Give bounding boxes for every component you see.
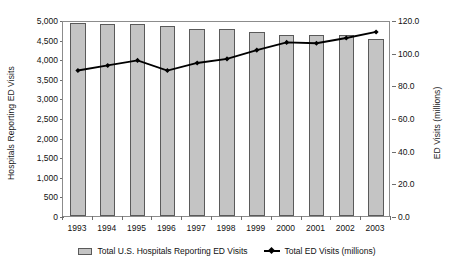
y-left-tick-4000: 4,000 (37, 56, 58, 65)
legend-label-bar: Total U.S. Hospitals Reporting ED Visits (97, 246, 247, 256)
y-right-tick-mark (392, 152, 396, 153)
bar-swatch-icon (78, 248, 92, 255)
x-axis-label-2003: 2003 (366, 223, 385, 233)
x-axis-label-2000: 2000 (276, 223, 295, 233)
x-axis-tick-mark (330, 216, 331, 220)
plot-area (62, 21, 390, 217)
x-axis-tick-mark (181, 216, 182, 220)
line-marker-2000 (284, 40, 289, 45)
line-marker-1997 (195, 60, 200, 65)
chart-legend: Total U.S. Hospitals Reporting ED Visits… (0, 246, 454, 256)
y-right-tick-mark (392, 54, 396, 55)
y-right-tick-mark (392, 217, 396, 218)
x-axis-label-2002: 2002 (336, 223, 355, 233)
chart-container: Hospitals Reporting ED Visits ED Visits … (0, 0, 454, 271)
x-axis-tick-mark (62, 216, 63, 220)
y-left-tick-0: 0 (53, 213, 58, 222)
line-path (78, 32, 376, 71)
legend-label-line: Total ED Visits (millions) (285, 246, 376, 256)
y-right-tick-mark (392, 184, 396, 185)
line-marker-1996 (165, 68, 170, 73)
line-marker-2001 (314, 41, 319, 46)
y-right-tick-mark (392, 119, 396, 120)
x-axis-tick-mark (301, 216, 302, 220)
y-left-tick-2500: 2,500 (37, 115, 58, 124)
x-axis-label-1997: 1997 (187, 223, 206, 233)
x-axis-tick-mark (271, 216, 272, 220)
x-axis-label-2001: 2001 (306, 223, 325, 233)
x-axis-label-1999: 1999 (246, 223, 265, 233)
y-right-tick-40.0: 40.0 (398, 147, 415, 156)
x-axis-tick-mark (92, 216, 93, 220)
line-marker-2003 (374, 29, 379, 34)
y-right-tick-mark (392, 21, 396, 22)
y-left-tick-2000: 2,000 (37, 134, 58, 143)
x-axis-tick-mark (241, 216, 242, 220)
line-series-layer (63, 22, 391, 218)
legend-item-bar: Total U.S. Hospitals Reporting ED Visits (78, 246, 247, 256)
x-axis-label-1993: 1993 (67, 223, 86, 233)
x-axis-label-1994: 1994 (97, 223, 116, 233)
y-right-tick-20.0: 20.0 (398, 180, 415, 189)
y-left-tick-1000: 1,000 (37, 174, 58, 183)
y-left-tick-500: 500 (44, 193, 58, 202)
y-right-tick-0.0: 0.0 (398, 213, 410, 222)
legend-item-line: Total ED Visits (millions) (264, 246, 376, 256)
line-marker-1998 (224, 56, 229, 61)
line-swatch-icon (264, 247, 280, 255)
x-axis-label-1995: 1995 (127, 223, 146, 233)
x-axis-tick-mark (122, 216, 123, 220)
x-axis-labels: 1993199419951996199719981999200020012002… (62, 220, 390, 236)
x-axis-tick-mark (151, 216, 152, 220)
y-right-tick-60.0: 60.0 (398, 115, 415, 124)
y-left-tick-5000: 5,000 (37, 17, 58, 26)
line-marker-1999 (254, 48, 259, 53)
y-left-tick-4500: 4,500 (37, 36, 58, 45)
line-marker-1994 (105, 63, 110, 68)
y-right-tick-120.0: 120.0 (398, 17, 419, 26)
y-right-tick-mark (392, 86, 396, 87)
x-axis-label-1996: 1996 (157, 223, 176, 233)
x-axis-label-1998: 1998 (217, 223, 236, 233)
line-marker-2002 (344, 35, 349, 40)
y-right-tick-100.0: 100.0 (398, 49, 419, 58)
plot-inner (63, 22, 389, 216)
x-axis-tick-mark (390, 216, 391, 220)
line-marker-1993 (75, 68, 80, 73)
y-left-tick-1500: 1,500 (37, 154, 58, 163)
y-axis-left-ticks: 05001,0001,5002,0002,5003,0003,5004,0004… (14, 21, 58, 217)
x-axis-tick-mark (211, 216, 212, 220)
y-left-tick-3500: 3,500 (37, 76, 58, 85)
y-left-tick-3000: 3,000 (37, 95, 58, 104)
line-marker-1995 (135, 58, 140, 63)
x-axis-tick-mark (360, 216, 361, 220)
y-right-tick-80.0: 80.0 (398, 82, 415, 91)
y-axis-right-ticks: 0.020.040.060.080.0100.0120.0 (398, 21, 438, 217)
